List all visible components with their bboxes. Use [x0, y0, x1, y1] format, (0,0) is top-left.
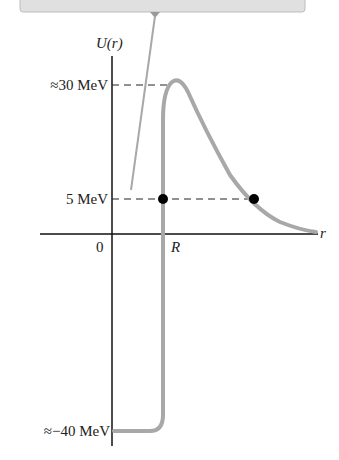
level-label-minus40: ≈−40 MeV — [44, 423, 110, 439]
potential-curve — [114, 80, 316, 431]
R-label: R — [170, 239, 180, 255]
level-label-30: ≈30 MeV — [50, 77, 108, 93]
x-axis-label: r — [320, 225, 326, 241]
turning-point-outer — [249, 194, 259, 204]
origin-label: 0 — [96, 239, 104, 255]
level-label-5: 5 MeV — [66, 191, 108, 207]
potential-energy-diagram: U(r) r 0 R ≈30 MeV 5 MeV ≈−40 MeV — [0, 0, 339, 460]
y-axis-label: U(r) — [96, 35, 123, 52]
turning-point-inner — [158, 194, 168, 204]
